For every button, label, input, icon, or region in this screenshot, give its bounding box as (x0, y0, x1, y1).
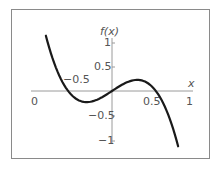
x-tick-label: 0 (31, 96, 38, 107)
y-tick-label: 1 (104, 37, 111, 48)
y-tick-label: −1 (98, 135, 114, 146)
x-axis-label: x (188, 78, 195, 89)
y-tick-label: 0.5 (94, 61, 112, 72)
x-tick-label: 1 (186, 96, 193, 107)
y-tick-label: −0.5 (88, 110, 115, 121)
x-tick-label: 0.5 (143, 96, 161, 107)
x-tick-label: −0.5 (63, 74, 90, 85)
